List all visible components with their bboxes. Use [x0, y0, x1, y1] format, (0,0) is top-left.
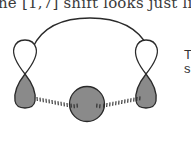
left-upper-lobe [14, 40, 37, 74]
side-text-line-1: T [184, 47, 191, 62]
sigmatropic-shift-diagram [0, 0, 191, 147]
right-p-orbital [135, 40, 157, 108]
right-upper-lobe [135, 40, 157, 74]
right-lower-lobe [136, 74, 156, 108]
polyene-chain-arc [33, 18, 148, 47]
left-lower-lobe [15, 74, 35, 108]
migrating-group-sphere [70, 87, 105, 122]
left-p-orbital [14, 40, 37, 108]
side-text-line-2: s [184, 61, 191, 76]
